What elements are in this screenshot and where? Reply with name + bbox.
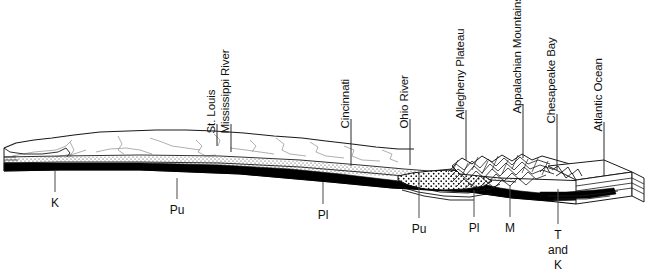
surface-label-chesapeake-bay: Chesapeake Bay [546, 37, 558, 123]
surface-label-st-louis: St. Louis [206, 90, 218, 134]
unit-label-pu-east: Pu [412, 222, 427, 236]
surface-label-atlantic-ocean: Atlantic Ocean [593, 58, 605, 131]
surface-label-allegheny-plateau: Allegheny Plateau [455, 28, 467, 119]
unit-label-m: M [505, 221, 515, 235]
surface-label-ohio-river: Ohio River [399, 75, 411, 128]
surface-label-appalachian-mountains: Appalachian Mountains [512, 0, 524, 114]
unit-label-pu-west: Pu [170, 203, 185, 217]
surface-label-mississippi-river: Mississippi River [220, 50, 232, 134]
unit-label-pl-central: Pl [318, 208, 329, 222]
unit-label-t-and-k: T and K [548, 228, 568, 273]
geologic-cross-section-figure: St. Louis Mississippi River Cincinnati O… [0, 0, 651, 278]
surface-label-cincinnati: Cincinnati [340, 79, 352, 129]
unit-label-pl-east: Pl [469, 221, 480, 235]
unit-label-k-west: K [51, 196, 59, 210]
ocean-block-side-face [632, 172, 644, 202]
